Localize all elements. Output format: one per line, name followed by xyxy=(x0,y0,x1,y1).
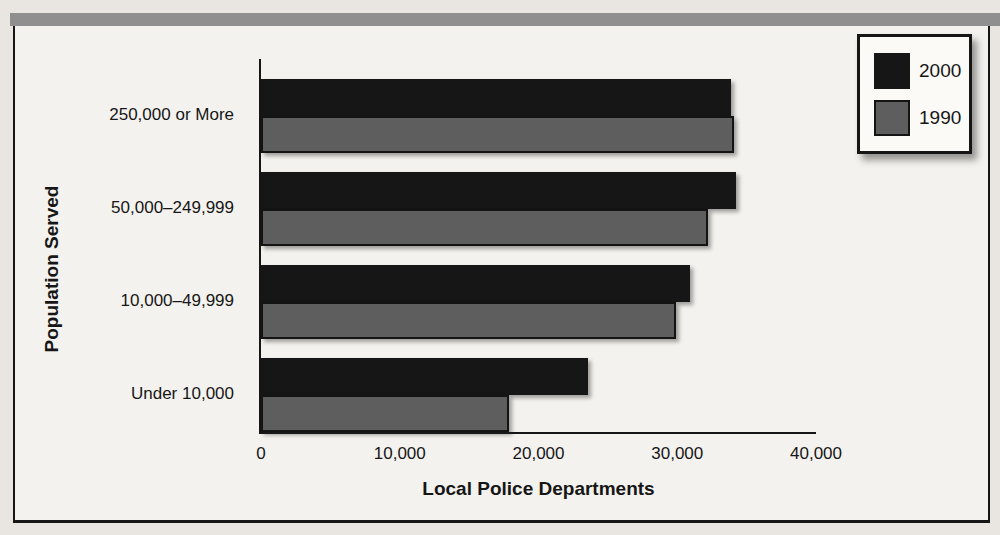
legend-swatch-1990 xyxy=(874,100,910,136)
bar-1990-group1 xyxy=(261,116,734,153)
category-label-2: 50,000–249,999 xyxy=(15,198,234,218)
x-axis-line xyxy=(259,432,816,434)
legend-label-1990: 1990 xyxy=(919,107,961,129)
category-label-1: 250,000 or More xyxy=(15,105,234,125)
x-tick-label-40,000: 40,000 xyxy=(771,444,861,464)
chart-legend: 2000 1990 xyxy=(857,34,972,154)
figure-page: Population Served 250,000 or More50,000–… xyxy=(0,0,1000,535)
category-label-3: 10,000–49,999 xyxy=(15,291,234,311)
x-tick-label-10,000: 10,000 xyxy=(355,444,445,464)
bar-2000-group2 xyxy=(261,172,736,209)
bar-1990-group2 xyxy=(261,209,708,246)
legend-item-2000: 2000 xyxy=(874,53,969,89)
legend-item-1990: 1990 xyxy=(874,100,969,136)
x-axis-title: Local Police Departments xyxy=(261,478,816,500)
bar-2000-group3 xyxy=(261,265,690,302)
x-tick-label-0: 0 xyxy=(216,444,306,464)
bar-2000-group1 xyxy=(261,79,731,116)
category-label-4: Under 10,000 xyxy=(15,384,234,404)
bar-1990-group4 xyxy=(261,395,509,432)
x-tick-label-30,000: 30,000 xyxy=(632,444,722,464)
bar-1990-group3 xyxy=(261,302,676,339)
bar-2000-group4 xyxy=(261,358,588,395)
figure-top-band xyxy=(10,13,1000,26)
legend-swatch-2000 xyxy=(874,53,910,89)
legend-label-2000: 2000 xyxy=(919,60,961,82)
x-tick-label-20,000: 20,000 xyxy=(494,444,584,464)
bar-chart-figure: Population Served 250,000 or More50,000–… xyxy=(13,26,990,523)
